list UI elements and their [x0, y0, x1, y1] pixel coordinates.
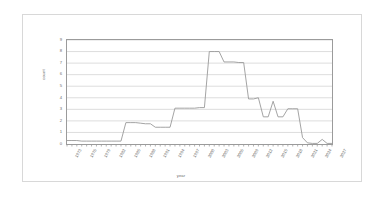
chart-page: 0123456789 19731976197919821985198819911… — [0, 0, 384, 198]
y-tick-label: 6 — [52, 72, 62, 76]
y-tick-label: 3 — [52, 107, 62, 111]
plot-border — [67, 40, 333, 145]
y-tick-label: 7 — [52, 61, 62, 65]
y-tick-label: 4 — [52, 96, 62, 100]
y-tick-label: 0 — [52, 142, 62, 146]
y-axis-title: count — [41, 69, 46, 80]
line-chart: 0123456789 19731976197919821985198819911… — [0, 0, 384, 198]
y-tick-label: 5 — [52, 84, 62, 88]
x-axis-title: year — [177, 173, 186, 178]
y-tick-label: 2 — [52, 119, 62, 123]
y-tick-label: 1 — [52, 130, 62, 134]
grid-lines — [67, 40, 332, 132]
y-tick-label: 9 — [52, 38, 62, 42]
y-tick-label: 8 — [52, 49, 62, 53]
